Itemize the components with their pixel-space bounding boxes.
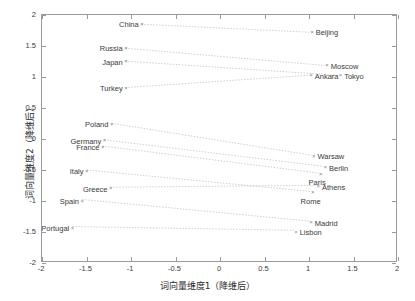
x-tick-mark (220, 15, 221, 19)
pair-line (102, 146, 318, 173)
data-point-label: Athens (322, 182, 345, 191)
data-point-marker[interactable] (325, 64, 328, 67)
pair-line (82, 200, 309, 222)
data-point-label: Russia (100, 44, 123, 53)
data-point-label: Lisbon (300, 228, 322, 237)
plot-inner: ChinaBeijingRussiaMoscowJapanTokyoTurkey… (42, 15, 396, 261)
data-point-marker[interactable] (309, 74, 312, 77)
pair-line (72, 227, 294, 231)
x-tick-mark (265, 15, 266, 19)
y-tick-mark (42, 232, 46, 233)
data-point-marker[interactable] (109, 187, 112, 190)
y-tick-label: 2 (6, 10, 36, 19)
data-point-label: Tokyo (344, 71, 364, 80)
data-point-marker[interactable] (124, 60, 127, 63)
pair-line (125, 75, 309, 87)
data-point-label: Berlin (329, 163, 348, 172)
y-tick-label: -2 (6, 258, 36, 267)
x-tick-label: -2 (38, 264, 45, 273)
data-point-label: Greece (83, 184, 108, 193)
y-tick-mark (392, 15, 396, 16)
x-tick-mark (42, 257, 43, 261)
data-point-marker[interactable] (319, 173, 322, 176)
pair-line (141, 24, 310, 32)
x-tick-label: 1.5 (347, 264, 357, 273)
data-point-label: Beijing (316, 28, 339, 37)
pair-line (110, 185, 316, 187)
y-axis-title: 词向量维度2（降维后） (23, 66, 36, 236)
x-tick-mark (131, 257, 132, 261)
data-point-marker[interactable] (294, 231, 297, 234)
y-tick-mark (42, 201, 46, 202)
x-tick-mark (309, 257, 310, 261)
x-tick-mark (176, 257, 177, 261)
data-point-marker[interactable] (324, 166, 327, 169)
y-tick-mark (392, 170, 396, 171)
y-tick-mark (42, 46, 46, 47)
x-tick-mark (398, 15, 399, 19)
data-point-label: Ankara (315, 71, 339, 80)
data-point-label: Turkey (100, 84, 123, 93)
y-tick-mark (42, 170, 46, 171)
scatter-plot-figure: ChinaBeijingRussiaMoscowJapanTokyoTurkey… (0, 0, 415, 301)
y-tick-mark (392, 201, 396, 202)
x-tick-mark (87, 257, 88, 261)
data-point-label: China (119, 20, 139, 29)
data-point-marker[interactable] (71, 227, 74, 230)
x-tick-label: 1 (306, 264, 310, 273)
data-point-marker[interactable] (312, 155, 315, 158)
data-point-label: Spain (60, 197, 79, 206)
y-tick-mark (42, 139, 46, 140)
x-tick-label: -1 (127, 264, 134, 273)
x-tick-mark (220, 257, 221, 261)
data-point-marker[interactable] (339, 74, 342, 77)
x-tick-label: -0.5 (168, 264, 181, 273)
data-point-marker[interactable] (81, 200, 84, 203)
x-tick-mark (309, 15, 310, 19)
pair-line (87, 170, 311, 192)
data-point-label: Rome (301, 196, 321, 205)
data-point-marker[interactable] (110, 123, 113, 126)
data-point-marker[interactable] (124, 87, 127, 90)
x-tick-label: 0.5 (258, 264, 268, 273)
pair-line (104, 140, 323, 166)
data-point-marker[interactable] (85, 170, 88, 173)
data-point-marker[interactable] (101, 146, 104, 149)
data-point-marker[interactable] (309, 221, 312, 224)
x-tick-label: -1.5 (79, 264, 92, 273)
y-tick-mark (42, 77, 46, 78)
data-point-label: Japan (102, 57, 122, 66)
data-point-label: Moscow (331, 61, 359, 70)
x-axis-title: 词向量维度1（降维后） (0, 279, 415, 292)
data-point-marker[interactable] (140, 23, 143, 26)
data-point-label: Poland (85, 120, 108, 129)
pair-line (125, 61, 338, 75)
y-tick-mark (42, 108, 46, 109)
data-point-label: Italy (70, 167, 84, 176)
y-tick-mark (392, 139, 396, 140)
x-tick-label: 0 (217, 264, 221, 273)
data-point-label: France (76, 143, 99, 152)
y-tick-mark (392, 46, 396, 47)
data-point-label: Madrid (315, 218, 338, 227)
data-point-label: Portugal (42, 224, 69, 233)
data-point-marker[interactable] (103, 139, 106, 142)
x-tick-label: 2 (395, 264, 399, 273)
data-point-marker[interactable] (310, 31, 313, 34)
x-tick-mark (354, 257, 355, 261)
data-point-label: Warsaw (317, 152, 344, 161)
plot-area: ChinaBeijingRussiaMoscowJapanTokyoTurkey… (41, 14, 397, 262)
x-tick-mark (354, 15, 355, 19)
y-tick-mark (392, 232, 396, 233)
x-tick-mark (265, 257, 266, 261)
data-point-marker[interactable] (311, 191, 314, 194)
data-point-marker[interactable] (124, 47, 127, 50)
y-tick-label: 1.5 (6, 41, 36, 50)
x-tick-mark (131, 15, 132, 19)
data-point-marker[interactable] (316, 185, 319, 188)
x-tick-mark (398, 257, 399, 261)
x-tick-mark (176, 15, 177, 19)
pair-line (111, 123, 311, 155)
x-tick-mark (87, 15, 88, 19)
y-tick-mark (42, 15, 46, 16)
